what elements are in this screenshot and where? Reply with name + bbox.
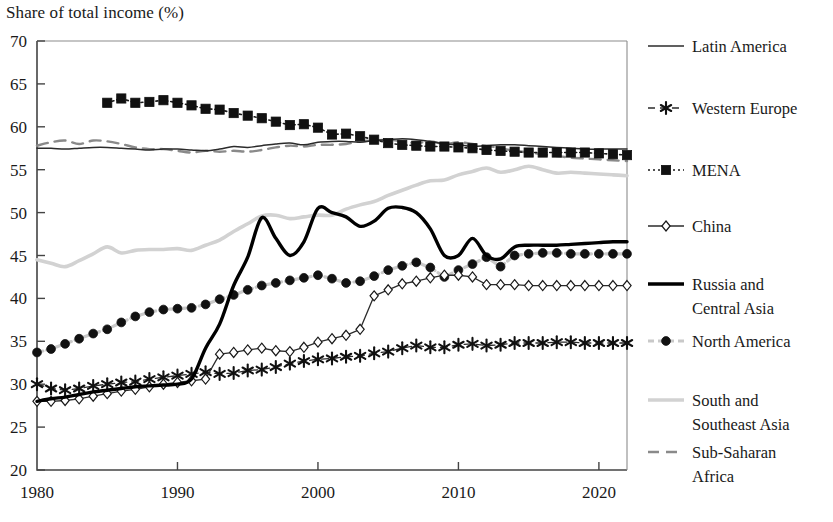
legend-item-north-america[interactable]: North America — [648, 332, 791, 351]
series-marker — [341, 129, 350, 138]
series-marker — [482, 145, 491, 154]
series-marker — [244, 345, 252, 355]
series-marker — [356, 277, 365, 286]
legend-label: South and — [692, 391, 759, 410]
series-marker — [229, 108, 238, 117]
series-marker — [257, 281, 266, 290]
series-marker — [159, 305, 168, 314]
legend-item-mena[interactable]: MENA — [648, 161, 741, 180]
legend-item-russia-central-asia[interactable]: Russia andCentral Asia — [648, 275, 775, 318]
series-marker — [159, 96, 168, 105]
chart-canvas: 7065605550454035302520198019902000201020… — [0, 0, 833, 522]
legend-item-south-southeast-asia[interactable]: South andSoutheast Asia — [648, 391, 790, 434]
series-marker — [370, 135, 379, 144]
series-marker — [384, 285, 392, 295]
series-marker — [440, 142, 449, 151]
series-marker — [243, 111, 252, 120]
series-marker — [384, 266, 393, 275]
x-tick-label: 2000 — [301, 483, 335, 502]
series-marker — [215, 295, 224, 304]
series-marker — [453, 339, 463, 351]
series-russia-and-central-asia — [37, 207, 627, 402]
chart-svg: 7065605550454035302520198019902000201020… — [0, 0, 833, 522]
y-tick-label: 60 — [10, 118, 27, 137]
series-marker — [271, 279, 280, 288]
series-marker — [370, 272, 379, 281]
y-tick-label: 30 — [10, 375, 27, 394]
legend-item-sub-saharan-africa[interactable]: Sub-SaharanAfrica — [648, 443, 776, 486]
series-marker — [201, 104, 210, 113]
series-marker — [468, 260, 477, 269]
x-tick-label: 2020 — [582, 483, 616, 502]
y-tick-label: 35 — [10, 332, 27, 351]
series-marker — [426, 142, 435, 151]
legend-label: North America — [692, 332, 791, 351]
series-marker — [271, 117, 280, 126]
x-tick-label: 2010 — [441, 483, 475, 502]
legend-label: Western Europe — [692, 99, 797, 118]
series-marker — [75, 334, 84, 343]
series-marker — [525, 281, 533, 291]
series-marker — [342, 279, 351, 288]
series-marker — [258, 343, 266, 353]
series-marker — [370, 291, 378, 301]
series-marker — [398, 279, 406, 289]
series-marker — [398, 140, 407, 149]
series-line — [37, 207, 627, 402]
legend-item-latin-america[interactable]: Latin America — [648, 37, 788, 56]
series-marker — [567, 281, 575, 291]
series-marker — [173, 304, 182, 313]
legend-item-china[interactable]: China — [648, 217, 732, 236]
series-marker — [511, 280, 519, 290]
series-marker — [468, 144, 477, 153]
legend-label: MENA — [692, 161, 741, 180]
y-tick-label: 25 — [10, 418, 27, 437]
legend-label: Russia and — [692, 275, 765, 294]
series-marker — [369, 347, 379, 359]
series-marker — [313, 123, 322, 132]
series-marker — [355, 350, 365, 362]
y-tick-label: 20 — [10, 461, 27, 480]
series-marker — [285, 120, 294, 129]
series-marker — [412, 258, 421, 267]
series-marker — [468, 272, 476, 282]
series-china — [33, 270, 631, 406]
legend-item-western-europe[interactable]: Western Europe — [648, 99, 797, 118]
series-marker — [539, 281, 547, 291]
axis-frame — [37, 41, 627, 470]
y-tick-label: 70 — [10, 32, 27, 51]
series-marker — [384, 139, 393, 148]
series-marker — [33, 348, 42, 357]
series-marker — [496, 280, 504, 290]
y-tick-label: 50 — [10, 204, 27, 223]
series-marker — [187, 303, 196, 312]
series-marker — [623, 281, 631, 291]
series-marker — [398, 261, 407, 270]
y-tick-label: 55 — [10, 161, 27, 180]
series-marker — [594, 149, 603, 158]
legend-label: Sub-Saharan — [692, 443, 776, 462]
series-marker — [145, 308, 154, 317]
series-marker — [285, 276, 294, 285]
series-marker — [426, 273, 434, 283]
series-marker — [89, 329, 98, 338]
x-tick-label: 1990 — [160, 483, 194, 502]
series-marker — [327, 130, 336, 139]
series-marker — [61, 339, 70, 348]
series-marker — [552, 148, 561, 157]
series-marker — [524, 249, 533, 258]
series-marker — [103, 325, 112, 334]
series-marker — [145, 97, 154, 106]
series-marker — [286, 347, 294, 357]
legend-label: Southeast Asia — [692, 415, 790, 434]
series-marker — [553, 281, 561, 291]
legend-label: Africa — [692, 467, 735, 486]
series-marker — [510, 251, 519, 260]
series-marker — [412, 141, 421, 150]
series-marker — [328, 334, 336, 344]
series-marker — [622, 151, 631, 160]
series-marker — [581, 281, 589, 291]
series-marker — [482, 280, 490, 290]
series-marker — [356, 324, 364, 334]
series-marker — [538, 249, 547, 258]
